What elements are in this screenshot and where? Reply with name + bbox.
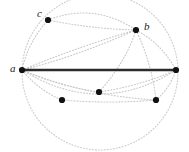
arc-a-to-p3: [22, 70, 62, 100]
dotted-arcs-layer: [22, 13, 176, 102]
arc-a-to-b2: [22, 30, 136, 70]
vertex-point-p4: [153, 97, 159, 103]
vertex-label-c: c: [37, 8, 42, 19]
arc-b-to-p1: [136, 30, 176, 70]
arc-b-to-p4: [136, 30, 156, 100]
arc-a-to-p2: [22, 70, 99, 92]
vertex-label-a: a: [10, 63, 16, 74]
vertex-point-a: [19, 67, 25, 73]
vertex-label-b: b: [144, 21, 150, 32]
vertex-point-b: [133, 27, 139, 33]
dotted-circle-layer: [22, 0, 178, 150]
arc-a-to-c: [22, 20, 48, 70]
arc-a-to-b: [22, 30, 136, 70]
arc-a-to-p4: [22, 70, 156, 100]
arc-c-to-b: [48, 20, 136, 30]
arc-p2-to-p1: [99, 70, 176, 92]
vertex-point-p1: [173, 67, 179, 73]
arc-p3-to-p4: [62, 100, 156, 102]
geometry-figure: abc: [0, 0, 189, 152]
vertex-point-p2: [96, 89, 102, 95]
vertex-point-c: [45, 17, 51, 23]
figure-canvas: [0, 0, 189, 152]
vertex-point-p3: [59, 97, 65, 103]
arc-c-top-b: [48, 13, 136, 30]
enclosing-dotted-circle: [22, 0, 178, 150]
